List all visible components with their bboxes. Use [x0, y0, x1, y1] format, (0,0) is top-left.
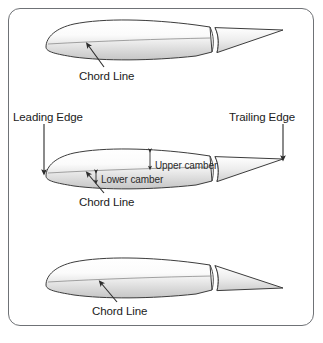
airfoil-top-flap — [215, 28, 283, 53]
leading-edge-label: Leading Edge — [13, 111, 83, 123]
airfoil-bottom-flap — [215, 266, 283, 291]
airfoil-middle — [44, 124, 283, 193]
chord-line-label-middle: Chord Line — [79, 196, 134, 208]
airfoil-diagram — [0, 0, 323, 343]
diagram-page: Chord Line Leading Edge Trailing Edge Up… — [0, 0, 323, 343]
airfoil-top — [46, 20, 283, 67]
airfoil-bottom — [46, 258, 283, 302]
chord-line-label-bottom: Chord Line — [92, 305, 147, 317]
lower-camber-label: Lower camber — [101, 174, 163, 185]
trailing-edge-label: Trailing Edge — [229, 111, 295, 123]
upper-camber-label: Upper camber — [155, 160, 217, 171]
chord-line-label-top: Chord Line — [79, 70, 134, 82]
airfoil-middle-flap — [215, 157, 283, 182]
